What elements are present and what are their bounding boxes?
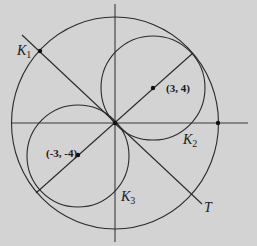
k1-point-dot	[38, 49, 42, 53]
label-k3: K3	[120, 189, 135, 206]
x-intercept-dot	[216, 121, 220, 125]
label-k2: K2	[182, 132, 197, 149]
label-t: T	[204, 200, 213, 215]
point-3-4-dot	[151, 86, 155, 90]
label-point-neg3-neg4: (-3, -4)	[46, 147, 77, 160]
circles-diagram: K1 K2 K3 T (3, 4) (-3, -4)	[0, 0, 257, 246]
label-point-3-4: (3, 4)	[166, 82, 190, 95]
label-k1: K1	[16, 43, 31, 60]
tangent-line-t	[22, 35, 202, 204]
origin-dot	[113, 121, 117, 125]
